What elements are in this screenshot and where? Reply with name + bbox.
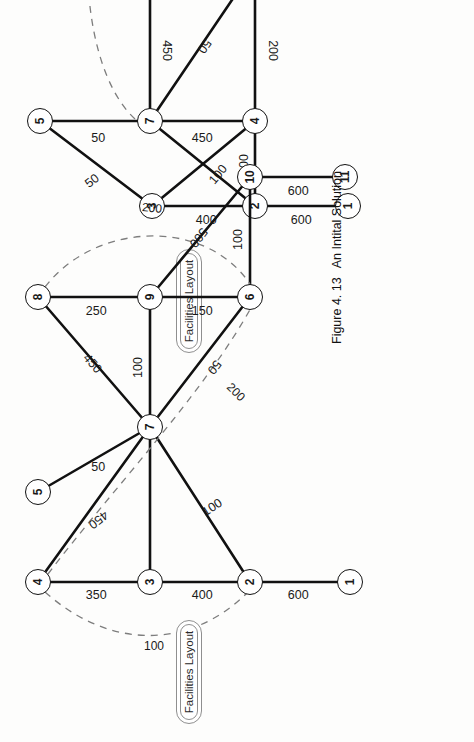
- figure-caption-initial: Figure 4. 13An Intital Solution: [330, 171, 344, 344]
- edge-label-2-4-dashed-i: 100: [144, 640, 164, 652]
- node-1-i[interactable]: 1: [337, 569, 363, 595]
- edge-label-10-11-i: 600: [288, 185, 309, 198]
- edge-label-1-2-i: 600: [288, 589, 309, 602]
- edge-label-8-9-i: 250: [86, 305, 107, 318]
- node-4-i[interactable]: 4: [25, 569, 51, 595]
- edge-4-7-i: [38, 427, 150, 582]
- edge-label-9-6-i: 150: [192, 305, 213, 318]
- edge-2-4-dashed-i: [45, 592, 248, 636]
- node-3-i[interactable]: 3: [137, 569, 163, 595]
- edge-label-6-10-i: 100: [232, 229, 245, 250]
- node-8-i[interactable]: 8: [25, 284, 51, 310]
- caption-number-initial: Figure 4. 13: [330, 277, 344, 344]
- edge-label-7-8: 450: [160, 40, 173, 61]
- edge-label-3-4-i: 350: [86, 589, 107, 602]
- edge-8-6-dashed-i: [45, 236, 250, 287]
- node-2-i[interactable]: 2: [237, 569, 263, 595]
- scanned-page: Facilities Layout: [0, 0, 474, 742]
- edge-label-4-6: 200: [266, 40, 279, 61]
- edge-label-8-6-dashed-i: 200: [141, 201, 162, 215]
- edge-label-5-7-i: 50: [91, 461, 105, 474]
- node-6-i[interactable]: 6: [237, 284, 263, 310]
- node-5-i[interactable]: 5: [25, 479, 51, 505]
- facilities-layout-label-2: Facilities Layout: [180, 624, 198, 720]
- figure-initial-solution: Facilities Layout: [0, 102, 380, 742]
- facilities-layout-badge-2: Facilities Layout: [176, 620, 202, 724]
- caption-title-initial: An Intital Solution: [330, 171, 344, 268]
- node-7-i[interactable]: 7: [137, 414, 163, 440]
- edge-label-7-9-i: 100: [132, 357, 145, 378]
- edge-2-7-i: [150, 427, 250, 582]
- node-9-i[interactable]: 9: [137, 284, 163, 310]
- edge-label-2-3-i: 400: [192, 589, 213, 602]
- node-10-i[interactable]: 10: [237, 164, 263, 190]
